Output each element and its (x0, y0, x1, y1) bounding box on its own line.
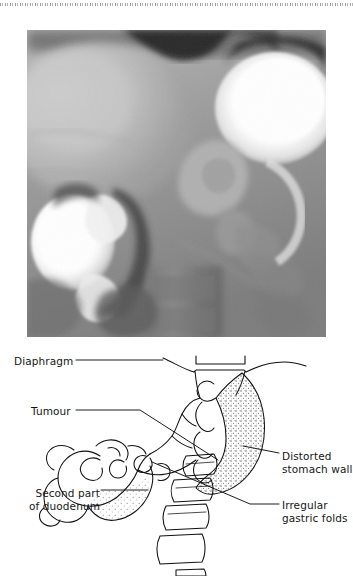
label-distorted-stomach-wall: Distorted stomach wall (282, 450, 353, 475)
barium-meal-radiograph (27, 30, 326, 337)
stomach-wall-shape (194, 373, 265, 494)
diaphragm-bracket (196, 356, 245, 364)
label-second-part-of-duodenum: Second part of duodenum (8, 487, 100, 512)
scan-artifact-line (0, 3, 353, 6)
tumour-outline (138, 398, 200, 475)
label-irregular-gastric-folds: Irregular gastric folds (282, 499, 348, 524)
label-tumour: Tumour (31, 405, 71, 418)
vertebral-bodies (157, 454, 217, 576)
label-diaphragm: Diaphragm (14, 355, 73, 368)
radiograph-image (27, 30, 326, 337)
